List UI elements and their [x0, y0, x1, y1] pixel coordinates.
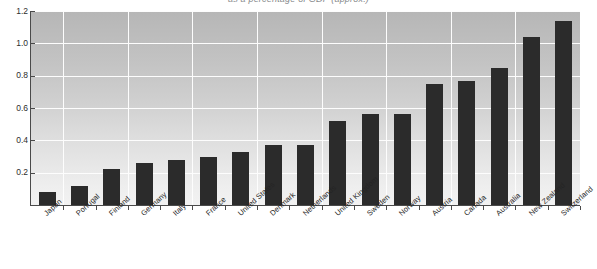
y-axis-tick-label: 1.2 [4, 7, 28, 16]
bar[interactable] [523, 37, 540, 205]
bar[interactable] [394, 114, 411, 205]
y-axis-tick-label: 0.8 [4, 71, 28, 80]
bar[interactable] [232, 152, 249, 205]
y-axis-tick-label: 0.2 [4, 168, 28, 177]
y-axis-tick-mark [31, 140, 35, 141]
bar[interactable] [426, 84, 443, 205]
y-axis-tick-label: 0.6 [4, 104, 28, 113]
plot-area [31, 11, 580, 205]
bar[interactable] [458, 81, 475, 205]
y-axis-tick-mark [31, 173, 35, 174]
bar[interactable] [168, 160, 185, 205]
y-axis-tick-mark [31, 108, 35, 109]
bar-chart-figure: as a percentage of GDP (approx.) 0.20.40… [0, 0, 597, 269]
bar[interactable] [491, 68, 508, 205]
bar[interactable] [297, 145, 314, 205]
bar[interactable] [265, 145, 282, 205]
y-axis-tick-mark [31, 43, 35, 44]
x-axis-category-labels: JapanPortugalFinlandGermanyItalyFranceUn… [0, 205, 597, 269]
chart-title: as a percentage of GDP (approx.) [0, 0, 597, 5]
y-axis-tick-mark [31, 11, 35, 12]
y-axis-tick-mark [31, 76, 35, 77]
bar[interactable] [200, 157, 217, 206]
bar[interactable] [136, 163, 153, 205]
bar[interactable] [555, 21, 572, 205]
bars-layer [31, 11, 580, 205]
y-axis-tick-label: 0.4 [4, 136, 28, 145]
y-axis-tick-label: 1.0 [4, 39, 28, 48]
